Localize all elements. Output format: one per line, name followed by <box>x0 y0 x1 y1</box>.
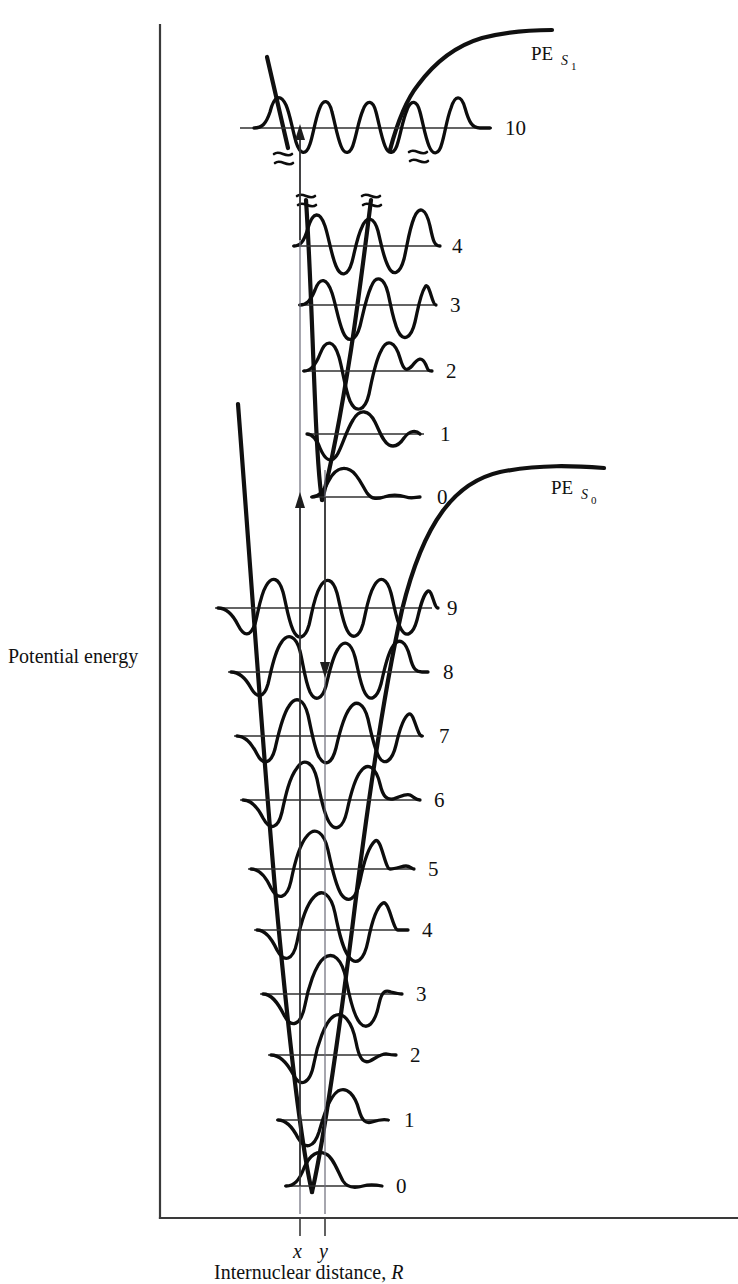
excited-level-1: 1 <box>306 412 451 460</box>
tick-label-y: y <box>317 1240 328 1263</box>
potential-energy-diagram: PE S 1 PE S 0 10 4 3 <box>0 0 738 1284</box>
excited-level-3: 3 <box>298 279 461 340</box>
level-number: 0 <box>396 1174 407 1198</box>
excited-state-curve-group <box>267 30 552 500</box>
pe-s1-label-base: PE <box>531 43 553 64</box>
level-number: 9 <box>447 596 458 620</box>
level-number: 1 <box>404 1108 415 1132</box>
ground-level-7: 7 <box>234 700 450 763</box>
pe-s1-label-subsub: 1 <box>571 60 577 72</box>
level-number: 8 <box>443 660 454 684</box>
wavefunction <box>254 98 490 153</box>
level-number: 7 <box>439 724 450 748</box>
figure-page: { "figure": { "type": "potential-energy-… <box>0 0 738 1284</box>
wavefunction <box>307 412 420 460</box>
pe-s1-label-sub: S <box>561 53 568 68</box>
excited-curve-right-wall-upper <box>390 30 552 150</box>
excited-curve-left-wall-lower <box>306 200 322 500</box>
level-number: 1 <box>440 422 451 446</box>
level-number: 3 <box>450 293 461 317</box>
pe-s0-label-subsub: 0 <box>591 494 597 506</box>
excited-level-0: 0 <box>310 469 448 510</box>
ground-curve-right-wall <box>312 466 604 1192</box>
ground-level-8: 8 <box>228 637 454 699</box>
break-mark-right-lower-2 <box>363 204 381 207</box>
y-axis-title: Potential energy <box>8 645 138 668</box>
level-number: 10 <box>505 116 526 140</box>
wavefunction <box>278 1090 388 1146</box>
x-axis-ticks: x y <box>292 1218 328 1263</box>
excited-level-4: 4 <box>292 210 463 274</box>
level-number: 4 <box>452 234 463 258</box>
level-number: 4 <box>422 918 433 942</box>
pe-s0-label-base: PE <box>551 477 573 498</box>
absorption-arrow-upper-head <box>295 124 305 140</box>
x-axis-title-italic: R <box>390 1261 403 1283</box>
break-mark-left <box>274 153 292 156</box>
level-number: 5 <box>428 857 439 881</box>
tick-label-x: x <box>292 1240 302 1262</box>
break-mark-left-2 <box>275 162 293 165</box>
pe-s0-label-sub: S <box>581 487 588 502</box>
break-mark-right-lower <box>362 195 380 198</box>
level-number: 2 <box>410 1043 421 1067</box>
level-number: 2 <box>446 359 457 383</box>
absorption-arrow-head <box>295 492 305 508</box>
wavefunction <box>300 279 436 340</box>
break-mark-right-2 <box>410 160 428 163</box>
wavefunction <box>304 343 432 409</box>
break-mark-right <box>409 151 427 154</box>
break-marks-level-4 <box>297 195 381 207</box>
ground-curve-left-wall <box>238 404 312 1192</box>
x-axis-title-main: Internuclear distance, <box>214 1261 391 1283</box>
curve-label-ground: PE S 0 <box>551 477 597 506</box>
ground-level-0: 0 <box>284 1153 407 1198</box>
curve-label-excited: PE S 1 <box>531 43 577 72</box>
level-number: 6 <box>434 788 445 812</box>
level-number: 0 <box>437 485 448 509</box>
x-axis-title: Internuclear distance, R <box>214 1261 403 1283</box>
axes-group <box>160 25 738 1218</box>
level-number: 3 <box>416 982 427 1006</box>
break-marks-level-10 <box>274 151 428 165</box>
excited-level-2: 2 <box>302 343 457 409</box>
